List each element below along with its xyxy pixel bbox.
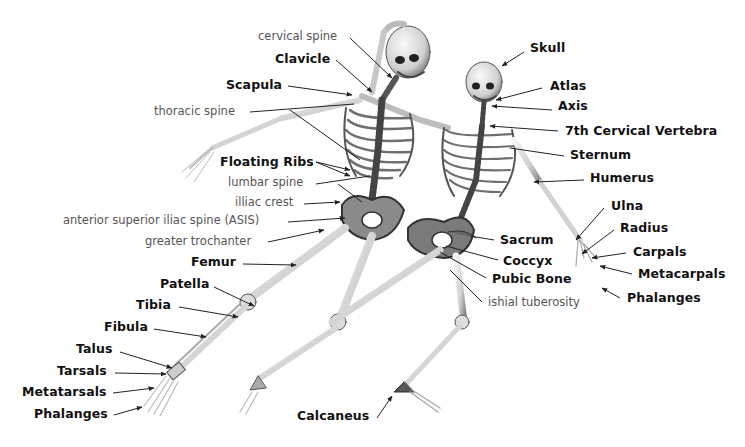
label-scapula: Scapula	[226, 79, 282, 92]
label-7th-cervical-vertebra: 7th Cervical Vertebra	[565, 125, 717, 138]
label-sacrum: Sacrum	[500, 234, 554, 247]
label-radius: Radius	[620, 222, 668, 235]
label-carpals: Carpals	[633, 246, 687, 259]
label-patella: Patella	[160, 278, 209, 291]
label-thoracic-spine: thoracic spine	[154, 106, 235, 118]
label-tarsals: Tarsals	[57, 365, 107, 378]
label-ishial-tuberosity: ishial tuberosity	[488, 297, 580, 309]
label-cervical-spine: cervical spine	[258, 31, 337, 43]
label-lumbar-spine: lumbar spine	[228, 177, 303, 189]
label-calcaneus: Calcaneus	[297, 410, 369, 423]
label-asis: anterior superior iliac spine (ASIS)	[63, 215, 259, 227]
label-pubic-bone: Pubic Bone	[492, 273, 572, 286]
label-phalanges-foot: Phalanges	[34, 408, 108, 421]
label-metacarpals: Metacarpals	[638, 268, 726, 281]
label-femur: Femur	[191, 256, 236, 269]
label-ulna: Ulna	[611, 200, 643, 213]
label-skull: Skull	[530, 42, 565, 55]
label-talus: Talus	[76, 343, 112, 356]
label-fibula: Fibula	[104, 321, 148, 334]
label-tibia: Tibia	[136, 299, 171, 312]
label-axis: Axis	[558, 100, 588, 113]
label-atlas: Atlas	[550, 80, 586, 93]
label-metatarsals: Metatarsals	[22, 386, 107, 399]
label-floating-ribs: Floating Ribs	[220, 156, 314, 169]
label-clavicle: Clavicle	[275, 53, 330, 66]
label-illiac-crest: illiac crest	[235, 197, 293, 209]
label-humerus: Humerus	[590, 172, 654, 185]
skeleton-anatomy-diagram: cervical spine Clavicle Scapula thoracic…	[0, 0, 745, 447]
label-sternum: Sternum	[570, 149, 631, 162]
label-greater-trochanter: greater trochanter	[145, 236, 251, 248]
label-coccyx: Coccyx	[503, 255, 552, 268]
label-phalanges-hand: Phalanges	[627, 292, 701, 305]
